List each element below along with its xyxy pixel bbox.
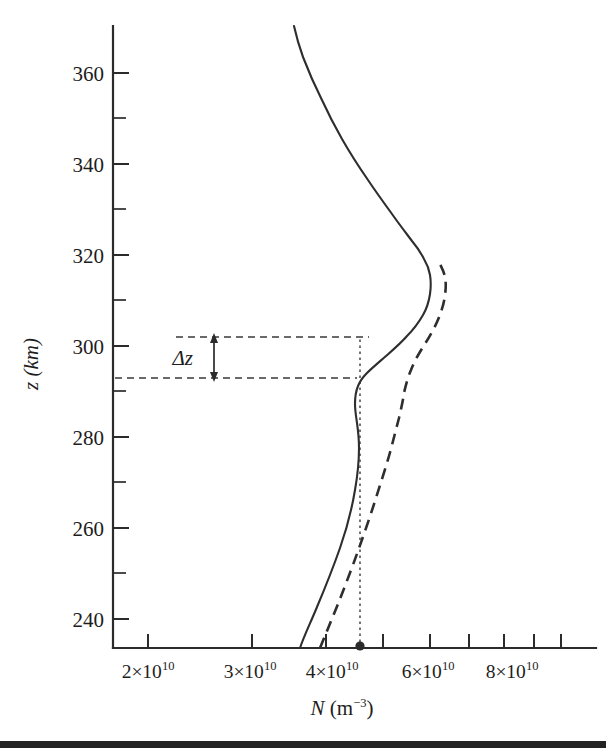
bottom-black-rule bbox=[0, 741, 606, 748]
x-label-3e10-exponent: 10 bbox=[264, 659, 277, 673]
x-label-8e10-mantissa: 8×10 bbox=[486, 661, 526, 682]
y-label-240: 240 bbox=[73, 608, 105, 632]
y-axis-tick-labels: 360 340 320 300 280 260 240 bbox=[73, 62, 105, 632]
data-series-group bbox=[294, 26, 446, 648]
delta-z-arrow-head-up bbox=[210, 333, 218, 343]
x-label-4e10-exponent: 10 bbox=[346, 659, 359, 673]
x-label-8e10: 8×1010 bbox=[486, 659, 539, 682]
model-profile-dashed bbox=[320, 264, 446, 648]
y-label-260: 260 bbox=[73, 517, 105, 541]
y-axis-title: z (km) bbox=[19, 338, 43, 391]
delta-z-arrow-head-down bbox=[210, 372, 218, 382]
x-axis-ticks bbox=[148, 634, 561, 648]
y-axis-title-group: z (km) bbox=[19, 338, 43, 391]
x-label-4e10-mantissa: 4×10 bbox=[306, 661, 346, 682]
x-axis-title: N (m−3) bbox=[310, 696, 374, 720]
x-label-8e10-exponent: 10 bbox=[526, 659, 539, 673]
y-label-280: 280 bbox=[73, 426, 105, 450]
x-label-6e10-mantissa: 6×10 bbox=[402, 661, 442, 682]
x-label-2e10-mantissa: 2×10 bbox=[122, 661, 162, 682]
x-label-6e10: 6×1010 bbox=[402, 659, 455, 682]
x-label-3e10: 3×1010 bbox=[224, 659, 277, 682]
axes-group bbox=[113, 26, 596, 648]
delta-z-label: Δz bbox=[172, 346, 194, 370]
x-axis-title-symbol: N bbox=[310, 696, 326, 720]
figure-container: 360 340 320 300 280 260 240 z (km) bbox=[0, 0, 606, 752]
axis-base-marker-dot bbox=[355, 641, 364, 650]
ionosphere-profile-chart: 360 340 320 300 280 260 240 z (km) bbox=[0, 0, 606, 752]
y-label-320: 320 bbox=[73, 244, 105, 268]
y-label-360: 360 bbox=[73, 62, 105, 86]
x-label-4e10: 4×1010 bbox=[306, 659, 359, 682]
axis-markers bbox=[355, 641, 364, 650]
x-label-2e10: 2×1010 bbox=[122, 659, 175, 682]
annotation-guides bbox=[115, 337, 369, 648]
x-axis-tick-labels: 2×1010 3×1010 4×1010 6×1010 8×1010 bbox=[122, 659, 539, 682]
y-label-340: 340 bbox=[73, 153, 105, 177]
x-label-3e10-mantissa: 3×10 bbox=[224, 661, 264, 682]
y-axis-ticks bbox=[113, 73, 129, 619]
y-label-300: 300 bbox=[73, 335, 105, 359]
x-label-2e10-exponent: 10 bbox=[162, 659, 175, 673]
x-label-6e10-exponent: 10 bbox=[442, 659, 455, 673]
delta-z-arrow-group: Δz bbox=[172, 333, 219, 382]
